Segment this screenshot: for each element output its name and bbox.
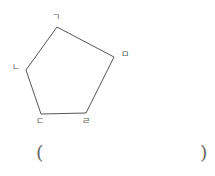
answer-input[interactable] [50,145,196,167]
vertex-label-giyeok: ㄱ [52,13,60,22]
vertex-label-rieul: ㄹ [82,117,90,126]
answer-blank[interactable]: ( ) [36,143,210,169]
vertex-label-mieum: ㅁ [121,50,129,59]
close-paren: ) [200,143,207,162]
vertex-label-nieun: ㄴ [12,63,20,72]
pentagon-shape [26,27,114,114]
open-paren: ( [36,143,43,162]
vertex-label-digeut: ㄷ [36,117,44,126]
worksheet-page: ㄱ ㅁ ㄹ ㄷ ㄴ ( ) [0,0,215,176]
